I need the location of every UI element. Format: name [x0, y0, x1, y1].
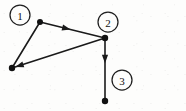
graph-edge-e1	[40, 22, 105, 38]
graph-node-top	[37, 19, 43, 25]
callout-label-3: 3	[119, 75, 125, 87]
arrowhead-icon-e2	[15, 61, 24, 67]
graph-edge-e2	[12, 38, 105, 68]
edges-layer	[12, 22, 105, 101]
graph-node-bottom_left	[9, 65, 15, 71]
callout-label-1: 1	[17, 10, 23, 22]
graph-figure: 123	[0, 0, 186, 111]
graph-node-right	[102, 35, 108, 41]
graph-node-bottom	[102, 98, 108, 104]
arrowhead-icon-e1	[62, 24, 71, 30]
arrowhead-icon-e3	[102, 55, 108, 64]
diagram-canvas: 123	[0, 0, 186, 111]
arrowheads-layer	[15, 24, 108, 67]
nodes-layer	[9, 19, 108, 104]
callout-label-2: 2	[105, 17, 111, 29]
callouts-layer: 123	[10, 5, 132, 90]
